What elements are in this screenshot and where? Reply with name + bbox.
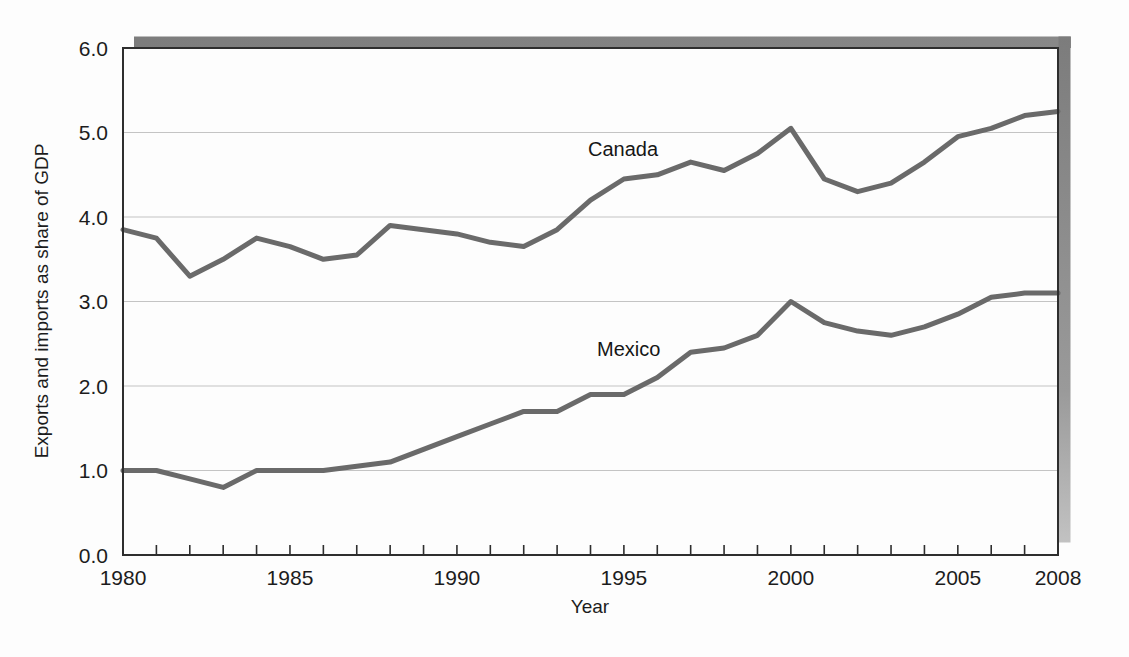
- canada-series-label: Canada: [588, 138, 659, 160]
- y-axis-tick-labels-group: 0.01.02.03.04.05.06.0: [79, 37, 108, 567]
- x-tick-label-1995: 1995: [601, 566, 648, 589]
- y-tick-label-3.0: 3.0: [79, 290, 108, 313]
- y-tick-label-1.0: 1.0: [79, 459, 108, 482]
- y-tick-label-0.0: 0.0: [79, 544, 108, 567]
- x-tick-label-1990: 1990: [434, 566, 481, 589]
- y-tick-label-6.0: 6.0: [79, 37, 108, 60]
- y-tick-label-4.0: 4.0: [79, 206, 108, 229]
- drop-shadow-right: [1059, 37, 1071, 543]
- x-axis-tick-labels-group: 1980198519901995200020052008: [100, 566, 1082, 589]
- y-tick-label-2.0: 2.0: [79, 375, 108, 398]
- y-axis-title: Exports and imports as share of GDP: [31, 144, 52, 459]
- x-tick-label-2005: 2005: [934, 566, 981, 589]
- x-axis-title: Year: [571, 596, 610, 617]
- x-tick-label-2008: 2008: [1035, 566, 1082, 589]
- x-tick-label-1985: 1985: [267, 566, 314, 589]
- drop-shadow-top: [134, 37, 1071, 49]
- x-tick-label-2000: 2000: [767, 566, 814, 589]
- line-chart-canvas: 1980198519901995200020052008 0.01.02.03.…: [0, 0, 1129, 657]
- y-tick-label-5.0: 5.0: [79, 121, 108, 144]
- x-tick-label-1980: 1980: [100, 566, 147, 589]
- mexico-series-label: Mexico: [597, 338, 660, 360]
- chart-figure: 1980198519901995200020052008 0.01.02.03.…: [0, 0, 1129, 657]
